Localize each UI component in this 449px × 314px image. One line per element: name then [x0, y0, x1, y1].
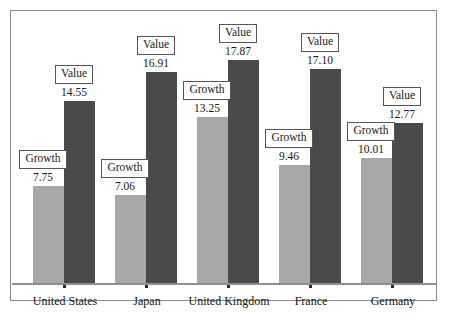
bar-chart: Growth 7.75 Value 14.55 Growth 7.06 Valu… [0, 0, 449, 314]
callout-growth: Growth 9.46 [262, 128, 316, 162]
callout-value-value: 12.77 [375, 109, 429, 121]
plot-area: Growth 7.75 Value 14.55 Growth 7.06 Valu… [11, 11, 436, 300]
x-axis-tick [63, 285, 66, 288]
x-axis-tick [391, 285, 394, 288]
callout-growth: Growth 13.25 [180, 80, 234, 114]
bar-growth [279, 165, 310, 283]
callout-value-value: 17.87 [211, 46, 265, 58]
callout-growth-value: 13.25 [180, 103, 234, 115]
x-axis-label: Germany [328, 294, 449, 309]
callout-value: Value 12.77 [375, 86, 429, 120]
callout-value-label: Value [383, 87, 421, 105]
bar-growth [115, 195, 146, 283]
callout-growth-value: 10.01 [344, 144, 398, 156]
callout-value-value: 17.10 [293, 55, 347, 67]
callout-growth: Growth 10.01 [344, 121, 398, 155]
bar-growth [361, 158, 392, 283]
bar-value [310, 69, 341, 283]
bar-growth [33, 186, 64, 283]
callout-value-label: Value [137, 36, 175, 54]
bar-value [64, 101, 95, 283]
callout-growth: Growth 7.06 [98, 158, 152, 192]
callout-growth-label: Growth [101, 159, 148, 177]
callout-growth-label: Growth [265, 129, 312, 147]
callout-growth: Growth 7.75 [16, 149, 70, 183]
callout-growth-value: 9.46 [262, 151, 316, 163]
callout-value: Value 14.55 [47, 64, 101, 98]
x-axis-line [12, 283, 436, 285]
x-axis-tick [227, 285, 230, 288]
callout-value-label: Value [55, 65, 93, 83]
callout-growth-label: Growth [183, 81, 230, 99]
callout-value: Value 17.87 [211, 23, 265, 57]
callout-value: Value 16.91 [129, 35, 183, 69]
callout-growth-label: Growth [347, 122, 394, 140]
callout-value-label: Value [219, 24, 257, 42]
callout-value-value: 14.55 [47, 87, 101, 99]
x-axis-tick [145, 285, 148, 288]
callout-growth-label: Growth [19, 150, 66, 168]
callout-value-label: Value [301, 33, 339, 51]
callout-growth-value: 7.75 [16, 172, 70, 184]
bar-growth [197, 117, 228, 283]
callout-growth-value: 7.06 [98, 181, 152, 193]
callout-value-value: 16.91 [129, 58, 183, 70]
x-axis-tick [309, 285, 312, 288]
callout-value: Value 17.10 [293, 32, 347, 66]
